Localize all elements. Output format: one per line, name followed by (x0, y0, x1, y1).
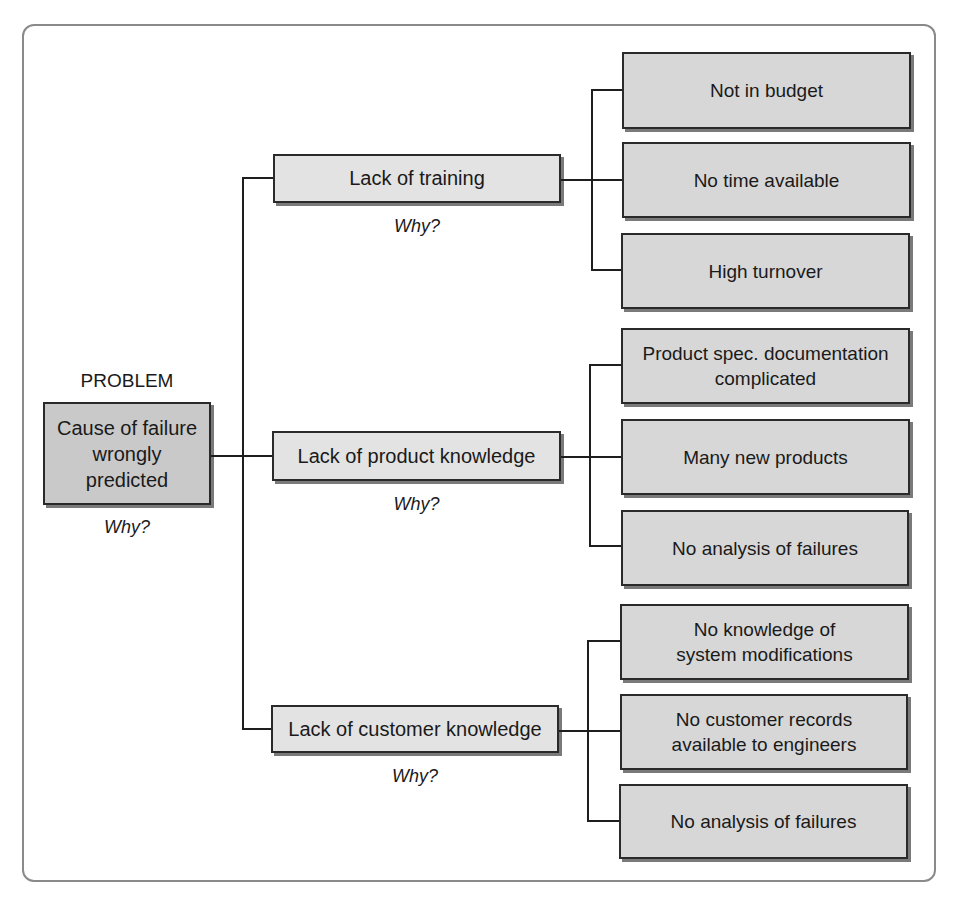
connector (591, 89, 622, 91)
subcause-box: No analysis of failures (621, 510, 909, 586)
subcause-box: Product spec. documentation complicated (621, 328, 910, 404)
subcause-box: High turnover (621, 233, 910, 309)
subcause-label: Not in budget (710, 78, 823, 103)
connector (587, 640, 589, 822)
problem-text: Cause of failure wrongly predicted (45, 415, 209, 493)
cause-why: Why? (273, 216, 561, 237)
subcause-label: No customer records available to enginee… (622, 707, 906, 757)
connector (242, 177, 244, 730)
cause-box-training: Lack of training (273, 154, 561, 203)
subcause-box: No analysis of failures (619, 784, 908, 859)
cause-box-customer-knowledge: Lack of customer knowledge (271, 705, 559, 753)
cause-label: Lack of training (349, 166, 485, 191)
connector (587, 640, 620, 642)
cause-why: Why? (272, 494, 561, 515)
connector (242, 728, 273, 730)
connector (587, 820, 620, 822)
subcause-box: No knowledge of system modifications (620, 604, 909, 680)
subcause-label: No time available (694, 168, 840, 193)
subcause-box: No customer records available to enginee… (620, 694, 908, 770)
subcause-label: Many new products (683, 445, 848, 470)
connector (589, 364, 591, 547)
subcause-box: No time available (622, 142, 911, 218)
subcause-label: Product spec. documentation complicated (623, 341, 908, 391)
connector (591, 269, 622, 271)
subcause-label: No analysis of failures (672, 536, 858, 561)
connector (559, 730, 620, 732)
subcause-box: Many new products (621, 419, 910, 495)
subcause-label: High turnover (708, 259, 822, 284)
subcause-label: No analysis of failures (671, 809, 857, 834)
connector (591, 89, 593, 271)
cause-label: Lack of customer knowledge (288, 717, 541, 742)
cause-label: Lack of product knowledge (298, 444, 536, 469)
connector (589, 364, 622, 366)
connector (242, 177, 273, 179)
subcause-box: Not in budget (622, 52, 911, 129)
cause-box-product-knowledge: Lack of product knowledge (272, 431, 561, 481)
problem-why: Why? (43, 517, 211, 538)
problem-heading: PROBLEM (43, 370, 211, 392)
subcause-label: No knowledge of system modifications (622, 617, 907, 667)
connector (589, 545, 622, 547)
connector (561, 456, 622, 458)
problem-box: Cause of failure wrongly predicted (43, 402, 211, 505)
cause-why: Why? (271, 766, 559, 787)
